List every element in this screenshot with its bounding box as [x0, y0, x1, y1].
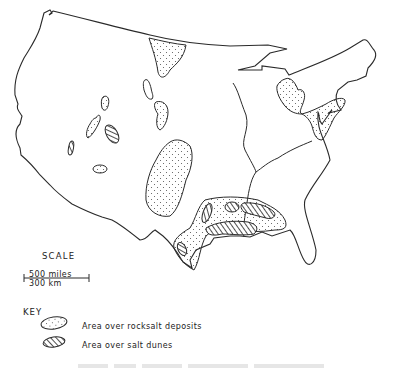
interior-border-east: [256, 141, 312, 172]
rocksalt-area-montana: [149, 38, 186, 77]
key-label-rocksalt: Area over rocksalt deposits: [82, 322, 202, 331]
rocksalt-area-utah: [87, 115, 101, 138]
rocksalt-area-idaho-outline: [143, 80, 153, 100]
rocksalt-area-wyoming: [155, 101, 168, 130]
us-map: [0, 0, 410, 368]
rocksalt-area-kansas-texas: [146, 140, 192, 216]
scale-label-miles: 500 miles: [29, 270, 72, 279]
stippled-ellipse-icon: [40, 315, 67, 331]
salt-dune-area-nevada: [67, 141, 74, 156]
key-label-salt-dunes: Area over salt dunes: [82, 341, 173, 350]
rocksalt-area-new-mexico: [93, 165, 107, 173]
key-title: KEY: [23, 307, 42, 317]
rocksalt-area-ohio-ny: [302, 98, 345, 140]
salt-dune-area-utah: [102, 123, 122, 146]
scale-label-km: 300 km: [29, 279, 62, 288]
scale-title: SCALE: [42, 251, 75, 261]
figure-caption-clipped: [78, 364, 324, 368]
salt-dune-area-texas-small: [225, 202, 239, 212]
rocksalt-area-utah-north: [101, 96, 108, 110]
rocksalt-area-michigan: [277, 78, 305, 114]
hatched-ellipse-icon: [42, 336, 65, 349]
